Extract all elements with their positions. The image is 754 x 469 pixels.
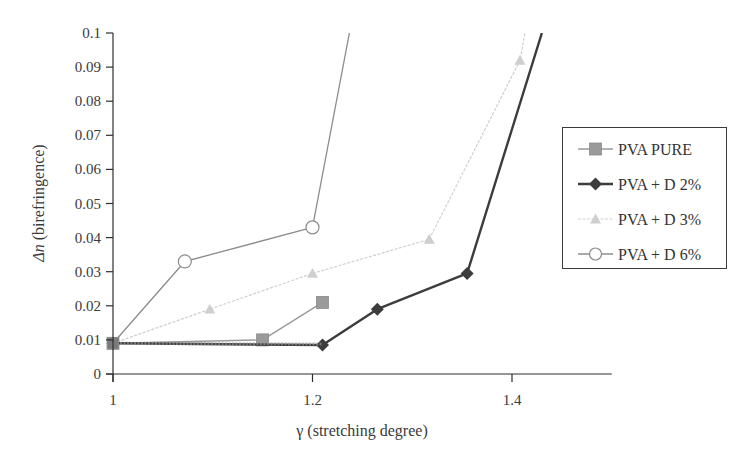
legend: PVA PUREPVA + D 2%PVA + D 3%PVA + D 6% [563, 128, 727, 269]
x-axis-title: γ (stretching degree) [295, 422, 427, 440]
data-point [307, 268, 318, 278]
data-point [178, 255, 191, 268]
data-point [316, 296, 328, 308]
legend-label: PVA + D 3% [618, 211, 701, 228]
y-tick-label: 0.04 [75, 230, 102, 246]
x-tick-label: 1.2 [303, 392, 322, 408]
series-layer [107, 33, 542, 352]
legend-marker-icon [590, 143, 602, 155]
axes: 00.010.020.030.040.050.060.070.080.090.1… [75, 25, 612, 408]
x-tick-label: 1.4 [503, 392, 522, 408]
data-point [306, 221, 319, 234]
y-tick-label: 0.05 [75, 196, 101, 212]
x-tick-label: 1 [109, 392, 117, 408]
data-point [424, 234, 435, 244]
series-line [113, 33, 349, 343]
y-tick-label: 0.09 [75, 59, 101, 75]
y-tick-label: 0.06 [75, 161, 102, 177]
data-point [461, 267, 474, 280]
legend-label: PVA + D 2% [618, 176, 701, 193]
legend-label: PVA + D 6% [618, 246, 701, 263]
y-tick-label: 0.03 [75, 264, 101, 280]
y-tick-label: 0.07 [75, 127, 102, 143]
y-tick-label: 0.01 [75, 332, 101, 348]
series-pva-d-6 [108, 33, 349, 348]
legend-item-4: PVA + D 6% [578, 246, 701, 263]
series-line [113, 302, 323, 343]
y-axis-symbol: Δn [30, 244, 47, 262]
y-tick-label: 0.02 [75, 298, 101, 314]
data-point [204, 304, 215, 314]
birefringence-chart: 00.010.020.030.040.050.060.070.080.090.1… [0, 0, 754, 469]
data-point [514, 55, 525, 65]
data-point [371, 303, 384, 316]
y-axis-rest: (birefringence) [30, 144, 48, 244]
y-axis-title: Δn (birefringence) [30, 144, 48, 262]
y-tick-label: 0.08 [75, 93, 101, 109]
legend-label: PVA PURE [618, 141, 692, 158]
series-pva-pure [107, 296, 328, 349]
y-tick-label: 0 [94, 366, 102, 382]
legend-marker-icon [590, 248, 602, 260]
y-tick-label: 0.1 [82, 25, 101, 41]
